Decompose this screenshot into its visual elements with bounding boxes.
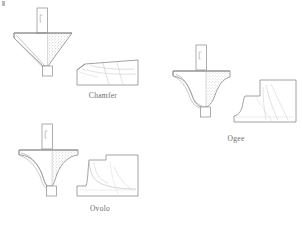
ovolo-shank — [42, 124, 53, 149]
ogee-shank — [196, 45, 207, 70]
figure-chamfer — [10, 6, 145, 86]
caption-ovolo: Ovolo — [56, 204, 144, 213]
chamfer-profile-block — [77, 60, 138, 85]
chamfer-shank — [37, 8, 48, 33]
figure-ovolo — [14, 122, 148, 207]
caption-chamfer: Chamfer — [60, 91, 146, 100]
ovolo-pilot-bearing — [47, 186, 57, 196]
chamfer-wing-inner-line — [17, 36, 46, 67]
ovolo-cutter-cross-section — [19, 124, 78, 196]
figure-ogee — [168, 43, 302, 131]
caption-ogee: Ogee — [192, 134, 280, 143]
ogee-profile-block — [234, 80, 296, 122]
ovolo-profile-block — [77, 155, 138, 196]
corner-artifact-mark — [2, 1, 5, 6]
chamfer-cutter-cross-section — [14, 8, 72, 76]
chamfer-drawing — [10, 6, 145, 86]
ogee-cutter-cross-section — [173, 45, 230, 117]
chamfer-wing-outer-line — [14, 38, 43, 68]
diagram-canvas: Chamfer — [0, 0, 302, 225]
chamfer-pilot-bearing — [43, 66, 53, 76]
ogee-pilot-bearing — [201, 107, 211, 117]
chamfer-block-outline — [77, 60, 138, 85]
ogee-wing-inner-line — [176, 75, 202, 107]
ovolo-drawing — [14, 122, 148, 207]
ogee-drawing — [168, 43, 302, 131]
